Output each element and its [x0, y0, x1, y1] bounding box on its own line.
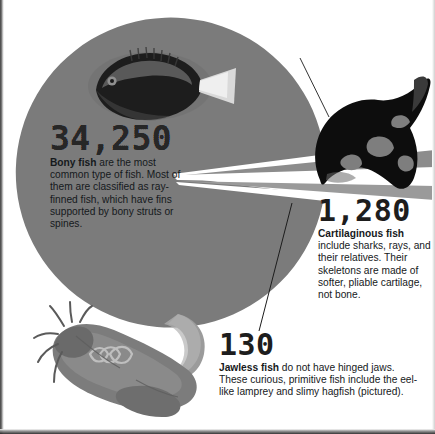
callout-bony-fish: 34,250 Bony fish are the most common typ…: [50, 122, 210, 230]
hagfish-illustration: [28, 296, 218, 424]
callout-jawless-fish: 130 Jawless fish do not have hinged jaws…: [219, 330, 425, 399]
infographic-page: 34,250 Bony fish are the most common typ…: [0, 0, 435, 434]
bony-fish-description: Bony fish are the most common type of fi…: [50, 157, 185, 230]
bony-fish-term: Bony fish: [50, 157, 99, 168]
bony-fish-count: 34,250: [50, 122, 210, 155]
callout-cartilaginous-fish: 1,280 Cartilaginous fish include sharks,…: [318, 196, 432, 301]
jawless-fish-term: Jawless fish: [219, 362, 282, 373]
cartilaginous-fish-detail: include sharks, rays, and their relative…: [318, 240, 431, 300]
cartilaginous-fish-term: Cartilaginous fish: [318, 228, 404, 239]
scan-edge-left: [0, 0, 4, 434]
jawless-fish-description: Jawless fish do not have hinged jaws. Th…: [219, 362, 425, 399]
scan-edge-bottom: [0, 429, 435, 434]
manta-ray-illustration: [286, 52, 435, 202]
jawless-fish-count: 130: [219, 330, 425, 360]
cartilaginous-fish-count: 1,280: [318, 196, 432, 226]
cartilaginous-fish-description: Cartilaginous fish include sharks, rays,…: [318, 228, 432, 301]
